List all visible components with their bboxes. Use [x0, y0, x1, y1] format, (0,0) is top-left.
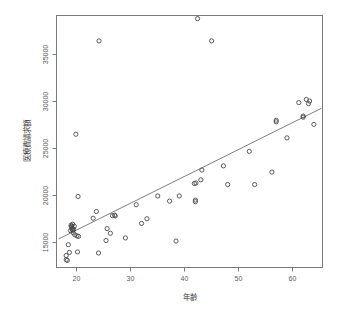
- x-tick-label: 60: [289, 275, 297, 282]
- y-tick-label: 25000: [42, 139, 49, 159]
- x-tick-label: 30: [127, 275, 135, 282]
- x-tick-label: 20: [73, 275, 81, 282]
- y-tick-label: 35000: [42, 45, 49, 65]
- chart-background: [0, 0, 339, 319]
- x-tick-label: 50: [235, 275, 243, 282]
- chart-container: 35000 30000 25000 20000 15000 20 30 40 5…: [0, 0, 339, 319]
- x-tick-label: 40: [181, 275, 189, 282]
- y-tick-label: 15000: [42, 233, 49, 253]
- y-tick-label: 30000: [42, 92, 49, 112]
- y-tick-label: 20000: [42, 186, 49, 206]
- y-axis-title: 医療費請求額: [22, 119, 32, 162]
- x-axis-title: 年齢: [183, 292, 198, 302]
- scatter-plot: 35000 30000 25000 20000 15000 20 30 40 5…: [0, 0, 339, 319]
